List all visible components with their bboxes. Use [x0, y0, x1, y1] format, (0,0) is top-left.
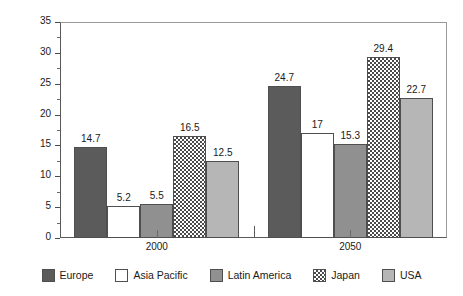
y-axis-tick-label: 15 [40, 138, 51, 149]
bar-japan-2000 [173, 136, 206, 238]
y-axis-title: Population over 65 % [2, 0, 24, 44]
y-axis-tick-label: 5 [45, 200, 51, 211]
legend-item-label: Europe [60, 269, 94, 281]
y-tick-mark [55, 115, 60, 116]
bar-value-label: 15.3 [341, 130, 360, 141]
y-axis-tick-label: 10 [40, 169, 51, 180]
bar-asia-pacific-2050 [301, 133, 334, 238]
y-tick-mark [57, 37, 60, 38]
asia-pacific-swatch [115, 269, 128, 282]
legend-item-label: USA [400, 269, 422, 281]
chart-legend: EuropeAsia PacificLatin AmericaJapanUSA [0, 262, 463, 288]
bar-japan-2050 [367, 57, 400, 238]
bar-latin-america-2050 [334, 144, 367, 238]
legend-item-label: Japan [331, 269, 360, 281]
y-tick-mark [55, 207, 60, 208]
bar-value-label: 24.7 [275, 72, 294, 83]
y-tick-mark [55, 84, 60, 85]
europe-swatch [42, 269, 55, 282]
bar-asia-pacific-2000 [107, 206, 140, 238]
bar-value-label: 29.4 [374, 43, 393, 54]
x-axis-tick-label: 2000 [146, 241, 168, 252]
y-tick-mark [57, 68, 60, 69]
bar-europe-2050 [268, 86, 301, 238]
y-axis-tick-label: 0 [45, 231, 51, 242]
bar-value-label: 12.5 [213, 147, 232, 158]
legend-item-japan[interactable]: Japan [313, 269, 360, 282]
bar-value-label: 22.7 [407, 84, 426, 95]
x-axis-minor-tick [157, 230, 158, 238]
bar-europe-2000 [74, 147, 107, 238]
y-axis-tick-label: 35 [40, 15, 51, 26]
bar-value-label: 5.5 [150, 190, 164, 201]
bar-value-label: 17 [312, 119, 323, 130]
y-tick-mark [57, 161, 60, 162]
y-tick-mark [57, 130, 60, 131]
japan-swatch [313, 269, 326, 282]
y-tick-mark [55, 22, 60, 23]
x-axis-group-separator [254, 226, 255, 238]
y-axis-tick-label: 20 [40, 108, 51, 119]
y-tick-mark [55, 238, 60, 239]
x-axis-tick-label: 2050 [339, 241, 361, 252]
x-axis-minor-tick [350, 230, 351, 238]
legend-item-usa[interactable]: USA [382, 269, 422, 282]
legend-item-europe[interactable]: Europe [42, 269, 94, 282]
y-axis-tick-label: 30 [40, 46, 51, 57]
bar-value-label: 5.2 [117, 192, 131, 203]
y-tick-mark [55, 145, 60, 146]
bar-chart: Population over 65 % EuropeAsia PacificL… [0, 0, 463, 296]
y-tick-mark [57, 223, 60, 224]
bar-usa-2000 [206, 161, 239, 238]
latin-america-swatch [210, 269, 223, 282]
legend-item-latin-america[interactable]: Latin America [210, 269, 292, 282]
y-axis-tick-label: 25 [40, 77, 51, 88]
y-tick-mark [55, 176, 60, 177]
bar-value-label: 14.7 [81, 133, 100, 144]
y-tick-mark [57, 192, 60, 193]
legend-item-asia-pacific[interactable]: Asia Pacific [115, 269, 187, 282]
bar-usa-2050 [400, 98, 433, 238]
y-tick-mark [55, 53, 60, 54]
legend-item-label: Latin America [228, 269, 292, 281]
bar-value-label: 16.5 [180, 122, 199, 133]
y-tick-mark [57, 99, 60, 100]
legend-item-label: Asia Pacific [133, 269, 187, 281]
usa-swatch [382, 269, 395, 282]
